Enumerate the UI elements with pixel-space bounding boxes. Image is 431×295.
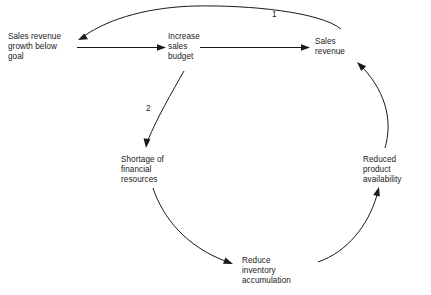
loop-label-2: 2 (146, 104, 151, 114)
edge-shortage-to-reduce-inventory (153, 188, 233, 264)
diagram-arrows-layer (0, 0, 431, 295)
node-shortage-of-financial-resources: Shortage of financial resources (121, 155, 164, 186)
node-reduced-product-availability: Reduced product availability (363, 155, 401, 186)
loop-label-1: 1 (272, 10, 277, 20)
node-sales-revenue: Sales revenue (315, 37, 345, 57)
edge-budget-to-revenue (200, 44, 310, 51)
node-increase-sales-budget: Increase sales budget (168, 32, 200, 63)
edge-reduce-inventory-to-reduced-availability (318, 187, 380, 262)
causal-loop-diagram: Sales revenue growth below goal Increase… (0, 0, 431, 295)
node-reduce-inventory-accumulation: Reduce inventory accumulation (242, 256, 291, 287)
edge-reduced-availability-to-revenue (357, 62, 388, 148)
edge-growth-to-budget (77, 44, 166, 51)
node-sales-revenue-growth-below-goal: Sales revenue growth below goal (8, 32, 61, 63)
edge-revenue-to-growth (78, 6, 341, 40)
